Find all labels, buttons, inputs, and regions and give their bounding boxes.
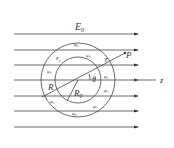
eps-label: εr <box>56 54 61 63</box>
svg-text:φ₂: φ₂ <box>47 69 52 74</box>
R0-label: R0 <box>73 88 83 99</box>
svg-text:φ₁: φ₁ <box>104 88 109 93</box>
svg-text:φ₂: φ₂ <box>74 42 79 47</box>
P-label: P <box>125 50 132 60</box>
svg-text:φ₂: φ₂ <box>86 53 91 58</box>
svg-text:φ₁: φ₁ <box>93 104 98 109</box>
z-label: z <box>159 76 164 85</box>
R-label: R <box>47 82 54 92</box>
theta-label: θ <box>92 75 96 84</box>
theta-arc <box>89 74 90 80</box>
radius-r-line <box>42 53 125 97</box>
field-label: E0 <box>74 21 84 33</box>
svg-text:φ₂: φ₂ <box>50 99 55 104</box>
dielectric-shell-diagram: E0 εr r P θ R R0 z φ₂ φ₂ φ₂ φ₂ φ₂ φ₁ φ₁ … <box>0 0 174 148</box>
svg-text:φ₂: φ₂ <box>72 111 77 116</box>
svg-text:φ₁: φ₁ <box>104 74 109 79</box>
